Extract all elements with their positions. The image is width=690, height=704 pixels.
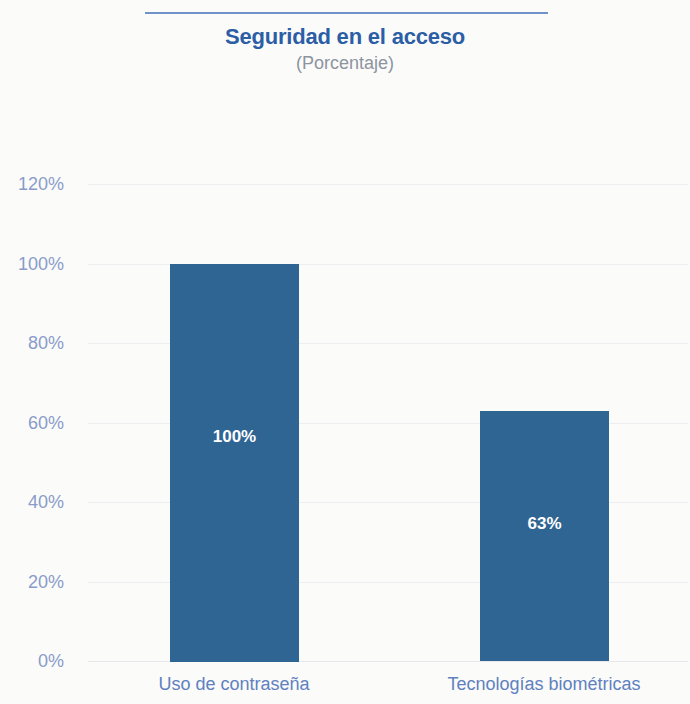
gridline: [88, 184, 688, 185]
x-axis-category-label: Tecnologías biométricas: [374, 673, 690, 695]
chart-figure: Seguridad en el acceso (Porcentaje) 0%20…: [0, 0, 690, 704]
y-axis-tick-label: 0%: [0, 652, 64, 670]
x-axis-category-label: Uso de contraseña: [64, 673, 404, 695]
y-axis-tick-label: 20%: [0, 573, 64, 591]
bar[interactable]: [170, 264, 299, 662]
plot-area: 0%20%40%60%80%100%120%100%Uso de contras…: [0, 0, 690, 704]
y-axis-tick-label: 120%: [0, 175, 64, 193]
bar-value-label: 100%: [170, 428, 299, 446]
bar-value-label: 63%: [480, 515, 609, 533]
y-axis-tick-label: 100%: [0, 255, 64, 273]
y-axis-tick-label: 80%: [0, 334, 64, 352]
bar[interactable]: [480, 411, 609, 661]
y-axis-tick-label: 60%: [0, 414, 64, 432]
y-axis-tick-label: 40%: [0, 493, 64, 511]
